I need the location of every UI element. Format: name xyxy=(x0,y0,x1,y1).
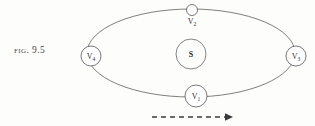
sun-label: S xyxy=(189,50,194,59)
node-v4: V4 xyxy=(81,46,101,66)
v2-label: V2 xyxy=(188,17,197,27)
v4-label-subscript: 4 xyxy=(92,56,95,62)
orbit-diagram: S V2 V1 V3 V4 xyxy=(0,0,315,126)
node-v2: V2 xyxy=(187,5,198,28)
v2-circle xyxy=(187,5,198,16)
v2-label-subscript: 2 xyxy=(193,21,196,27)
node-v1: V1 xyxy=(185,85,207,107)
figure-container: Fig. 9.5 S V2 V1 V3 V4 xyxy=(0,0,315,126)
arrow-head-icon xyxy=(225,113,233,121)
direction-of-motion-arrow xyxy=(152,113,233,121)
sun-body: S xyxy=(176,39,206,69)
v1-label-subscript: 1 xyxy=(197,96,200,102)
node-v3: V3 xyxy=(286,46,306,66)
v3-label-subscript: 3 xyxy=(297,56,300,62)
